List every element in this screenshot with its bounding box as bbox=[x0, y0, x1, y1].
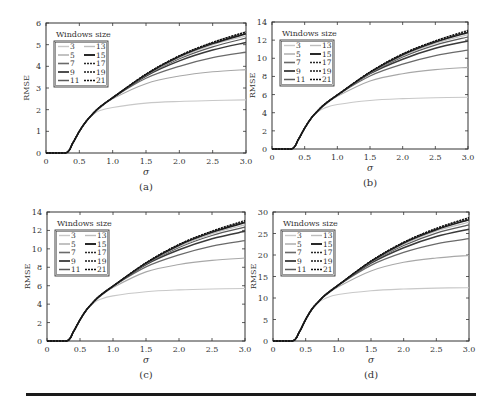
x-tick-label: 3.0 bbox=[239, 345, 252, 354]
legend-title: Windows size bbox=[282, 29, 337, 38]
x-tick-label: 1.0 bbox=[332, 345, 345, 354]
x-axis-label: σ bbox=[143, 167, 150, 177]
x-tick-label: 2.5 bbox=[206, 345, 219, 354]
y-tick-label: 10 bbox=[258, 294, 268, 303]
x-tick-label: 2.0 bbox=[173, 345, 186, 354]
legend-title: Windows size bbox=[56, 30, 111, 39]
x-tick-label: 2.0 bbox=[396, 153, 409, 162]
legend-label-21: 21 bbox=[97, 265, 107, 274]
series-line-window-3 bbox=[47, 288, 245, 341]
y-tick-label: 2 bbox=[37, 319, 42, 328]
x-tick-label: 2.5 bbox=[430, 345, 443, 354]
x-tick-label: 2.5 bbox=[206, 157, 219, 166]
x-tick-label: 2.5 bbox=[429, 153, 442, 162]
y-tick-label: 15 bbox=[258, 273, 268, 282]
panel-label: (a) bbox=[139, 181, 153, 192]
y-tick-label: 14 bbox=[32, 208, 42, 217]
chart-panel-d: 00.51.01.52.02.53.0051015202530σRMSE(d)W… bbox=[249, 208, 475, 380]
legend-label-21: 21 bbox=[96, 76, 106, 85]
legend-label-11: 11 bbox=[71, 265, 81, 274]
series-line-window-3 bbox=[46, 100, 246, 153]
y-tick-label: 5 bbox=[263, 316, 268, 325]
x-tick-label: 0 bbox=[270, 345, 275, 354]
x-tick-label: 3.0 bbox=[240, 157, 253, 166]
y-tick-label: 14 bbox=[257, 18, 267, 27]
series-line-window-3 bbox=[273, 288, 469, 341]
y-tick-label: 12 bbox=[32, 226, 42, 235]
legend-label-11: 11 bbox=[297, 265, 307, 274]
y-axis-label: RMSE bbox=[249, 264, 258, 290]
series-line-window-3 bbox=[272, 97, 468, 149]
x-axis-label: σ bbox=[143, 355, 150, 365]
y-tick-label: 1 bbox=[36, 127, 41, 136]
x-tick-label: 3.0 bbox=[462, 153, 475, 162]
y-tick-label: 5 bbox=[36, 41, 41, 50]
y-tick-label: 10 bbox=[32, 245, 42, 254]
y-tick-label: 0 bbox=[262, 145, 267, 154]
chart-panel-a: 00.51.01.52.02.53.00123456σRMSE(a)Window… bbox=[22, 19, 252, 192]
legend-label-11: 11 bbox=[296, 75, 306, 84]
x-tick-label: 1.0 bbox=[106, 157, 119, 166]
y-tick-label: 25 bbox=[258, 230, 268, 239]
y-tick-label: 6 bbox=[36, 19, 41, 28]
y-axis-label: RMSE bbox=[248, 73, 257, 99]
y-tick-label: 0 bbox=[37, 337, 42, 346]
x-tick-label: 1.0 bbox=[331, 153, 344, 162]
panel-label: (b) bbox=[363, 177, 377, 188]
y-tick-label: 0 bbox=[263, 337, 268, 346]
x-tick-label: 0 bbox=[44, 345, 49, 354]
y-tick-label: 4 bbox=[262, 109, 267, 118]
legend-title: Windows size bbox=[57, 219, 112, 228]
y-tick-label: 3 bbox=[36, 84, 41, 93]
y-tick-label: 6 bbox=[262, 91, 267, 100]
y-tick-label: 20 bbox=[258, 251, 268, 260]
y-tick-label: 2 bbox=[36, 106, 41, 115]
x-tick-label: 2.0 bbox=[173, 157, 186, 166]
x-tick-label: 0.5 bbox=[74, 345, 87, 354]
legend-label-21: 21 bbox=[322, 75, 332, 84]
y-tick-label: 8 bbox=[37, 263, 42, 272]
y-tick-label: 0 bbox=[36, 149, 41, 158]
panel-label: (d) bbox=[364, 369, 378, 380]
y-tick-label: 6 bbox=[37, 282, 42, 291]
x-tick-label: 1.5 bbox=[364, 153, 377, 162]
legend-title: Windows size bbox=[283, 219, 338, 228]
y-tick-label: 4 bbox=[37, 300, 42, 309]
x-tick-label: 0.5 bbox=[299, 345, 312, 354]
x-tick-label: 0 bbox=[269, 153, 274, 162]
legend-label-11: 11 bbox=[70, 76, 80, 85]
x-tick-label: 0.5 bbox=[73, 157, 86, 166]
figure-canvas: 00.51.01.52.02.53.00123456σRMSE(a)Window… bbox=[0, 0, 496, 403]
x-tick-label: 0 bbox=[43, 157, 48, 166]
y-tick-label: 8 bbox=[262, 72, 267, 81]
y-axis-label: RMSE bbox=[23, 264, 32, 290]
x-tick-label: 1.5 bbox=[140, 157, 153, 166]
chart-panel-c: 00.51.01.52.02.53.002468101214σRMSE(c)Wi… bbox=[23, 208, 251, 380]
panel-label: (c) bbox=[139, 369, 153, 380]
y-tick-label: 12 bbox=[257, 36, 267, 45]
y-tick-label: 10 bbox=[257, 54, 267, 63]
y-tick-label: 2 bbox=[262, 127, 267, 136]
y-axis-label: RMSE bbox=[22, 75, 31, 101]
x-tick-label: 3.0 bbox=[463, 345, 476, 354]
x-axis-label: σ bbox=[368, 355, 375, 365]
x-tick-label: 1.5 bbox=[140, 345, 153, 354]
x-tick-label: 2.0 bbox=[397, 345, 410, 354]
y-tick-label: 30 bbox=[258, 208, 268, 217]
bottom-rule-divider bbox=[26, 393, 476, 396]
y-tick-label: 4 bbox=[36, 62, 41, 71]
legend-label-21: 21 bbox=[323, 265, 333, 274]
x-tick-label: 0.5 bbox=[298, 153, 311, 162]
x-axis-label: σ bbox=[367, 163, 374, 173]
x-tick-label: 1.0 bbox=[107, 345, 120, 354]
x-tick-label: 1.5 bbox=[365, 345, 378, 354]
chart-panel-b: 00.51.01.52.02.53.002468101214σRMSE(b)Wi… bbox=[248, 18, 474, 188]
